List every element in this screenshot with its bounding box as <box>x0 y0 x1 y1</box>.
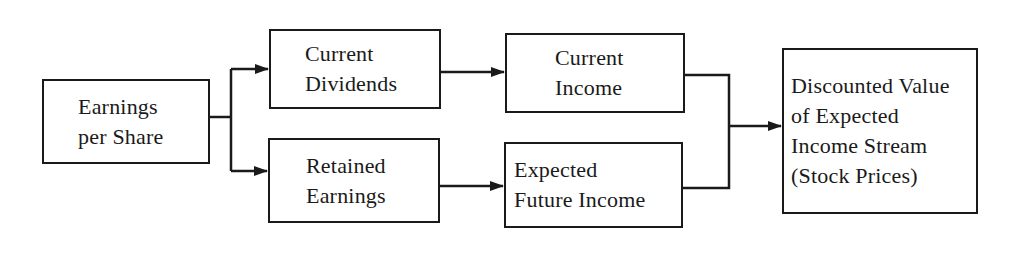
node-label-line: (Stock Prices) <box>791 161 918 191</box>
node-label-line: Retained <box>306 151 386 181</box>
node-current-income: Current Income <box>505 33 685 113</box>
node-expected-future-income: Expected Future Income <box>504 142 683 228</box>
node-label-line: Income Stream <box>791 131 927 161</box>
node-label-line: Earnings <box>78 92 158 122</box>
node-label-line: Income <box>555 73 622 103</box>
node-discounted-value-stock-prices: Discounted Value of Expected Income Stre… <box>782 48 978 214</box>
node-label-line: Expected <box>514 155 597 185</box>
node-current-dividends: Current Dividends <box>269 29 441 109</box>
node-earnings-per-share: Earnings per Share <box>42 79 210 164</box>
node-label-line: per Share <box>78 122 163 152</box>
flowchart-canvas: Earnings per Share Current Dividends Ret… <box>0 0 1018 254</box>
node-retained-earnings: Retained Earnings <box>268 138 440 223</box>
node-label-line: Current <box>305 39 374 69</box>
node-label-line: Discounted Value <box>791 71 950 101</box>
node-label-line: of Expected <box>791 101 899 131</box>
node-label-line: Dividends <box>305 69 397 99</box>
node-label-line: Future Income <box>514 185 646 215</box>
node-label-line: Earnings <box>306 181 386 211</box>
node-label-line: Current <box>555 43 624 73</box>
merge-from-current-income <box>683 75 729 188</box>
